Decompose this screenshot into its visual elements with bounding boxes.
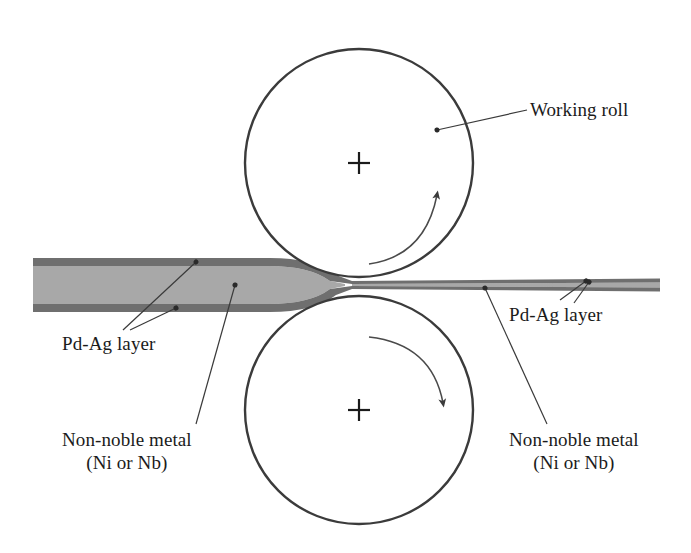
outgoing-strip-group	[352, 279, 660, 292]
label-non-noble-metal-right-line1: Non-noble metal	[509, 428, 639, 451]
label-non-noble-metal-left-line2: (Ni or Nb)	[62, 451, 192, 474]
upper-working-roll	[245, 49, 473, 277]
label-non-noble-metal-right-line2: (Ni or Nb)	[509, 451, 639, 474]
rolling-process-diagram: Working roll Pd-Ag layer Pd-Ag layer Non…	[0, 0, 691, 553]
label-non-noble-metal-left: Non-noble metal (Ni or Nb)	[62, 428, 192, 474]
incoming-strip-group	[33, 258, 352, 312]
label-pdag-layer-right: Pd-Ag layer	[509, 303, 602, 326]
incoming-core-non-noble-metal	[33, 266, 345, 304]
lower-working-roll	[245, 296, 473, 524]
label-pdag-layer-left: Pd-Ag layer	[62, 332, 155, 355]
label-non-noble-metal-right: Non-noble metal (Ni or Nb)	[509, 428, 639, 474]
label-working-roll: Working roll	[530, 98, 628, 121]
label-non-noble-metal-left-line1: Non-noble metal	[62, 428, 192, 451]
